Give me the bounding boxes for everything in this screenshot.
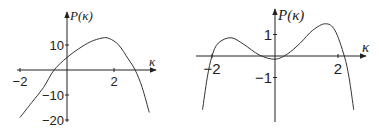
chart-right: −221−1 P(κ) κ <box>196 7 370 122</box>
ticks: −2210−10−20 <box>13 38 118 128</box>
chart-left: −2210−10−20 P(κ) κ <box>13 8 156 128</box>
y-tick-label: 10 <box>50 38 64 53</box>
y-tick-label: −10 <box>42 88 64 103</box>
x-tick-label: −2 <box>13 74 28 89</box>
x-tick-label: −2 <box>203 60 220 77</box>
y-tick-label: −1 <box>255 69 272 86</box>
y-axis-title: P(κ) <box>69 8 93 23</box>
y-axis-title: P(κ) <box>277 7 304 24</box>
y-tick-label: 1 <box>264 26 272 43</box>
x-axis-title: κ <box>149 54 156 69</box>
figure: −2210−10−20 P(κ) κ −221−1 P(κ) κ <box>0 0 379 133</box>
curve <box>20 38 149 118</box>
y-tick-label: −20 <box>42 113 64 128</box>
x-tick-label: 2 <box>334 60 342 77</box>
x-axis-title: κ <box>362 39 370 55</box>
curve <box>203 24 354 110</box>
x-tick-label: 2 <box>110 74 117 89</box>
